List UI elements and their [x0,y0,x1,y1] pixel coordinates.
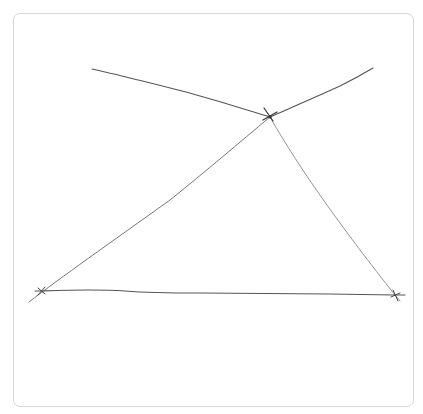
apex-point [268,115,271,118]
triangle-diagram [0,0,423,414]
left-side [29,117,270,302]
upper-right-ray [270,68,373,117]
base [35,290,405,295]
right-side [270,117,400,301]
upper-left-ray [92,69,270,117]
